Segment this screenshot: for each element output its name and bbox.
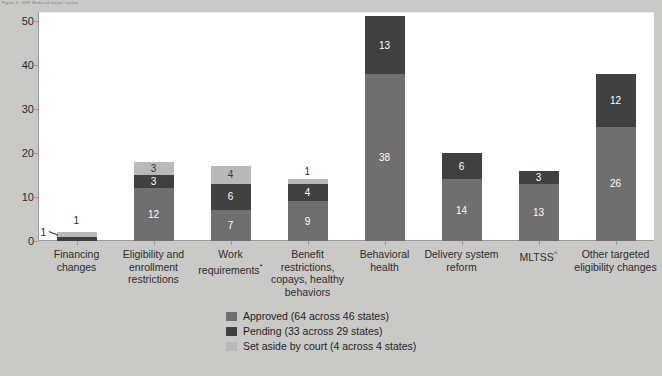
x-axis-tick-mark	[539, 241, 540, 245]
legend-swatch-approved	[226, 312, 237, 321]
x-axis-tick-mark	[462, 241, 463, 245]
bar-segment-pending[interactable]: 12	[596, 74, 636, 127]
top-strip: Figure 4 - KFF Medicaid waiver tracker	[0, 0, 662, 9]
x-axis-tick-mark	[154, 241, 155, 245]
y-axis-tick-label: 10	[0, 192, 34, 202]
bar-segment-pending[interactable]: 3	[519, 171, 559, 184]
x-axis-category-label: Other targetedeligibility changes	[568, 248, 662, 273]
bar-column[interactable]: 313	[519, 171, 559, 241]
x-axis-tick-mark	[77, 241, 78, 245]
bar-column[interactable]	[57, 232, 97, 241]
category-label-line: copays, healthy	[260, 273, 355, 286]
legend-swatch-setaside	[226, 342, 237, 351]
bar-column[interactable]: 3312	[134, 162, 174, 241]
bar-segment-approved[interactable]: 9	[288, 201, 328, 241]
micro-caption: Figure 4 - KFF Medicaid waiver tracker	[2, 0, 79, 6]
chart-legend: Approved (64 across 46 states)Pending (3…	[226, 310, 416, 353]
bar-column[interactable]: 49	[288, 179, 328, 241]
bar-segment-approved[interactable]: 26	[596, 127, 636, 242]
bar-segment-pending[interactable]: 6	[211, 184, 251, 210]
bar-segment-approved[interactable]: 7	[211, 210, 251, 241]
bar-value-label: 1	[74, 215, 80, 226]
y-axis-tick-mark	[34, 241, 38, 242]
y-axis-tick-label: 50	[0, 16, 34, 26]
x-axis-tick-mark	[231, 241, 232, 245]
legend-label: Pending (33 across 29 states)	[243, 325, 383, 338]
bar-segment-approved[interactable]: 13	[519, 184, 559, 241]
bar-segment-approved[interactable]: 38	[365, 74, 405, 241]
bar-value-label: 1	[305, 166, 311, 177]
legend-item[interactable]: Approved (64 across 46 states)	[226, 310, 416, 323]
y-axis-tick-label: 0	[0, 236, 34, 246]
bar-value-label: 1	[41, 227, 47, 238]
bar-segment-setaside[interactable]: 4	[211, 166, 251, 184]
category-label-line: behaviors	[260, 286, 355, 299]
x-axis-tick-mark	[308, 241, 309, 245]
legend-label: Set aside by court (4 across 4 states)	[243, 340, 416, 353]
category-label-line: Other targeted	[568, 248, 662, 261]
bar-column[interactable]: 1226	[596, 74, 636, 241]
x-axis-tick-mark	[385, 241, 386, 245]
bars-container: 33124674913386143131226	[38, 12, 654, 241]
bar-segment-pending[interactable]: 13	[365, 16, 405, 73]
legend-item[interactable]: Pending (33 across 29 states)	[226, 325, 416, 338]
x-axis-tick-mark	[616, 241, 617, 245]
category-label-line: eligibility changes	[568, 261, 662, 274]
bar-segment-approved[interactable]: 14	[442, 179, 482, 241]
y-axis-tick-label: 30	[0, 104, 34, 114]
bar-segment-pending[interactable]: 6	[442, 153, 482, 179]
legend-item[interactable]: Set aside by court (4 across 4 states)	[226, 340, 416, 353]
bar-column[interactable]: 1338	[365, 16, 405, 241]
bar-segment-pending[interactable]: 3	[134, 175, 174, 188]
bar-column[interactable]: 467	[211, 166, 251, 241]
y-axis-tick-label: 20	[0, 148, 34, 158]
bar-column[interactable]: 614	[442, 153, 482, 241]
bar-segment-setaside[interactable]: 3	[134, 162, 174, 175]
bar-segment-approved[interactable]: 12	[134, 188, 174, 241]
bar-segment-pending[interactable]: 4	[288, 184, 328, 202]
legend-swatch-pending	[226, 327, 237, 336]
legend-label: Approved (64 across 46 states)	[243, 310, 389, 323]
y-axis-tick-label: 40	[0, 60, 34, 70]
